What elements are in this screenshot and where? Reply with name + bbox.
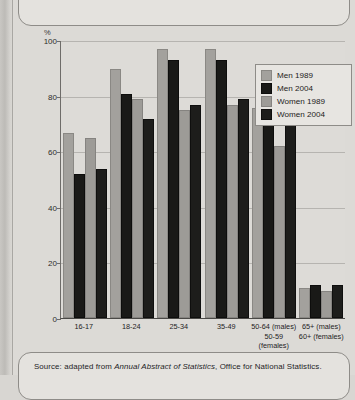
- bar: [157, 49, 168, 318]
- x-axis-label-line: 50-59: [250, 332, 298, 342]
- x-axis-label-line: (females): [250, 341, 298, 351]
- x-axis-label-line: 35-49: [217, 322, 236, 331]
- bar: [132, 99, 143, 318]
- legend-label: Women 2004: [277, 110, 325, 119]
- bar-group: [108, 41, 155, 318]
- legend-item[interactable]: Men 2004: [261, 82, 346, 95]
- bar: [85, 138, 96, 318]
- source-prefix: Source: adapted from: [34, 362, 114, 371]
- legend-swatch-icon: [261, 70, 272, 81]
- bar: [263, 110, 274, 318]
- bar: [299, 288, 310, 318]
- bar-group: [61, 41, 108, 318]
- bar-group: [203, 41, 250, 318]
- x-axis-label: 25-34: [155, 322, 203, 351]
- bar: [332, 285, 343, 318]
- legend-item[interactable]: Women 2004: [261, 108, 346, 121]
- bar: [274, 146, 285, 318]
- bar: [168, 60, 179, 318]
- y-axis-tick-mark: [57, 41, 61, 42]
- x-axis-label: 16-17: [60, 322, 108, 351]
- bar: [321, 291, 332, 318]
- bar: [96, 169, 107, 318]
- y-axis-tick-mark: [57, 319, 61, 320]
- bar: [285, 124, 296, 318]
- legend-item[interactable]: Men 1989: [261, 69, 346, 82]
- chart-area: % 020406080100 16-1718-2425-3435-4950-64…: [14, 24, 355, 354]
- bar: [74, 174, 85, 318]
- bar-group: [156, 41, 203, 318]
- y-axis-tick-mark: [57, 97, 61, 98]
- legend-label: Men 2004: [277, 84, 313, 93]
- bar: [252, 108, 263, 319]
- legend-swatch-icon: [261, 109, 272, 120]
- bar: [179, 110, 190, 318]
- bar: [63, 133, 74, 318]
- y-axis-tick-label: 60: [48, 148, 57, 157]
- bar: [227, 105, 238, 318]
- bar: [121, 94, 132, 318]
- y-axis-tick-label: 40: [48, 203, 57, 212]
- x-axis-label: 35-49: [203, 322, 251, 351]
- legend-label: Men 1989: [277, 71, 313, 80]
- y-axis-tick-label: 80: [48, 92, 57, 101]
- x-axis-label-line: 65+ (males): [302, 322, 341, 331]
- bar: [110, 69, 121, 318]
- source-suffix: , Office for National Statistics.: [215, 362, 322, 371]
- source-publication: Annual Abstract of Statistics: [114, 362, 215, 371]
- x-axis-label: 50-64 (males)50-59(females): [250, 322, 298, 351]
- bar: [216, 60, 227, 318]
- bar: [190, 105, 201, 318]
- x-axis-label-line: 50-64 (males): [251, 322, 296, 331]
- source-panel: [18, 352, 350, 400]
- bar: [310, 285, 321, 318]
- x-axis-label-line: 60+ (females): [298, 332, 346, 342]
- x-axis-label-line: 16-17: [74, 322, 93, 331]
- title-panel: [18, 0, 350, 26]
- x-axis-label-line: 18-24: [122, 322, 141, 331]
- x-axis-label-line: 25-34: [169, 322, 188, 331]
- y-axis-tick-label: 20: [48, 259, 57, 268]
- bar: [143, 119, 154, 318]
- bar: [238, 99, 249, 318]
- legend-label: Women 1989: [277, 97, 325, 106]
- x-axis-labels: 16-1718-2425-3435-4950-64 (males)50-59(f…: [60, 322, 345, 351]
- x-axis-label: 65+ (males)60+ (females): [298, 322, 346, 351]
- x-axis-label: 18-24: [108, 322, 156, 351]
- legend: Men 1989Men 2004Women 1989Women 2004: [255, 64, 352, 126]
- legend-item[interactable]: Women 1989: [261, 95, 346, 108]
- legend-swatch-icon: [261, 96, 272, 107]
- legend-swatch-icon: [261, 83, 272, 94]
- y-axis-tick-label: 100: [44, 37, 57, 46]
- y-axis-tick-mark: [57, 152, 61, 153]
- y-axis-tick-mark: [57, 208, 61, 209]
- page-gutter-line: [12, 0, 13, 375]
- source-note: Source: adapted from Annual Abstract of …: [34, 362, 344, 371]
- y-axis-tick-mark: [57, 263, 61, 264]
- bar: [205, 49, 216, 318]
